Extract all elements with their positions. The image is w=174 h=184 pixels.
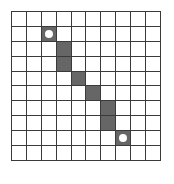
grid-cell-empty[interactable] [72,101,87,116]
grid-cell-empty[interactable] [72,146,87,161]
grid-cell-empty[interactable] [146,57,161,72]
grid-cell-empty[interactable] [27,131,42,146]
grid-cell-empty[interactable] [72,131,87,146]
grid-cell-empty[interactable] [86,146,101,161]
grid-cell-empty[interactable] [42,72,57,87]
grid-cell-empty[interactable] [72,12,87,27]
grid-cell-empty[interactable] [146,146,161,161]
grid-cell-empty[interactable] [86,72,101,87]
grid-cell-filled[interactable] [86,86,101,101]
grid-cell-empty[interactable] [72,27,87,42]
grid-cell-empty[interactable] [27,116,42,131]
grid-cell-empty[interactable] [57,12,72,27]
grid-cell-empty[interactable] [101,72,116,87]
grid-cell-empty[interactable] [12,146,27,161]
grid-cell-empty[interactable] [146,42,161,57]
grid-cell-empty[interactable] [12,57,27,72]
grid-cell-empty[interactable] [57,101,72,116]
grid-cell-empty[interactable] [131,101,146,116]
grid-cell-empty[interactable] [101,27,116,42]
grid-cell-empty[interactable] [86,116,101,131]
grid-cell-empty[interactable] [146,12,161,27]
grid-cell-empty[interactable] [27,86,42,101]
puzzle-grid[interactable] [11,11,161,161]
grid-cell-empty[interactable] [42,86,57,101]
grid-cell-empty[interactable] [116,42,131,57]
grid-cell-empty[interactable] [116,57,131,72]
grid-cell-empty[interactable] [146,86,161,101]
grid-cell-empty[interactable] [131,146,146,161]
grid-cell-empty[interactable] [101,12,116,27]
grid-cell-empty[interactable] [27,42,42,57]
grid-cell-empty[interactable] [57,146,72,161]
grid-cell-empty[interactable] [131,131,146,146]
grid-cell-empty[interactable] [72,116,87,131]
grid-cell-filled-marker[interactable] [116,131,131,146]
grid-cell-empty[interactable] [12,131,27,146]
grid-cell-empty[interactable] [101,131,116,146]
grid-cell-empty[interactable] [27,57,42,72]
grid-cell-empty[interactable] [12,42,27,57]
grid-cell-empty[interactable] [131,57,146,72]
grid-cell-empty[interactable] [42,146,57,161]
grid-cell-empty[interactable] [101,57,116,72]
grid-cell-empty[interactable] [146,72,161,87]
grid-cell-empty[interactable] [146,131,161,146]
grid-cell-empty[interactable] [57,116,72,131]
grid-cell-empty[interactable] [86,42,101,57]
grid-cell-empty[interactable] [116,146,131,161]
grid-cell-empty[interactable] [116,72,131,87]
grid-cell-empty[interactable] [101,86,116,101]
grid-cell-empty[interactable] [131,42,146,57]
grid-cell-empty[interactable] [57,131,72,146]
grid-cell-empty[interactable] [116,12,131,27]
grid-cell-empty[interactable] [116,27,131,42]
grid-cell-empty[interactable] [146,27,161,42]
grid-cell-empty[interactable] [86,12,101,27]
grid-cell-empty[interactable] [131,116,146,131]
grid-cell-empty[interactable] [42,116,57,131]
grid-cell-empty[interactable] [42,42,57,57]
grid-cell-empty[interactable] [27,12,42,27]
grid-cell-empty[interactable] [12,72,27,87]
grid-cell-empty[interactable] [27,72,42,87]
grid-cell-empty[interactable] [72,42,87,57]
grid-cell-empty[interactable] [86,27,101,42]
grid-cell-filled[interactable] [101,116,116,131]
grid-cell-empty[interactable] [27,146,42,161]
grid-cell-filled[interactable] [57,57,72,72]
grid-cell-empty[interactable] [12,116,27,131]
grid-cell-empty[interactable] [116,101,131,116]
grid-cell-filled[interactable] [72,72,87,87]
grid-cell-empty[interactable] [42,57,57,72]
grid-cell-empty[interactable] [86,101,101,116]
grid-cell-empty[interactable] [131,12,146,27]
grid-cell-empty[interactable] [72,57,87,72]
grid-cell-empty[interactable] [101,146,116,161]
grid-cell-empty[interactable] [86,131,101,146]
grid-cell-empty[interactable] [57,86,72,101]
grid-cell-empty[interactable] [131,86,146,101]
grid-cell-filled[interactable] [101,101,116,116]
grid-cell-empty[interactable] [12,86,27,101]
grid-cell-empty[interactable] [42,12,57,27]
grid-cell-empty[interactable] [86,57,101,72]
grid-cell-filled-marker[interactable] [42,27,57,42]
grid-cell-empty[interactable] [12,101,27,116]
grid-cell-empty[interactable] [146,101,161,116]
grid-cell-filled[interactable] [57,42,72,57]
grid-cell-empty[interactable] [72,86,87,101]
grid-cell-empty[interactable] [57,27,72,42]
grid-cell-empty[interactable] [146,116,161,131]
grid-cell-empty[interactable] [116,86,131,101]
grid-cell-empty[interactable] [27,101,42,116]
grid-cell-empty[interactable] [12,27,27,42]
grid-cell-empty[interactable] [57,72,72,87]
grid-cell-empty[interactable] [131,72,146,87]
grid-cell-empty[interactable] [131,27,146,42]
grid-cell-empty[interactable] [116,116,131,131]
grid-cell-empty[interactable] [42,101,57,116]
grid-cell-empty[interactable] [42,131,57,146]
grid-cell-empty[interactable] [12,12,27,27]
grid-cell-empty[interactable] [101,42,116,57]
